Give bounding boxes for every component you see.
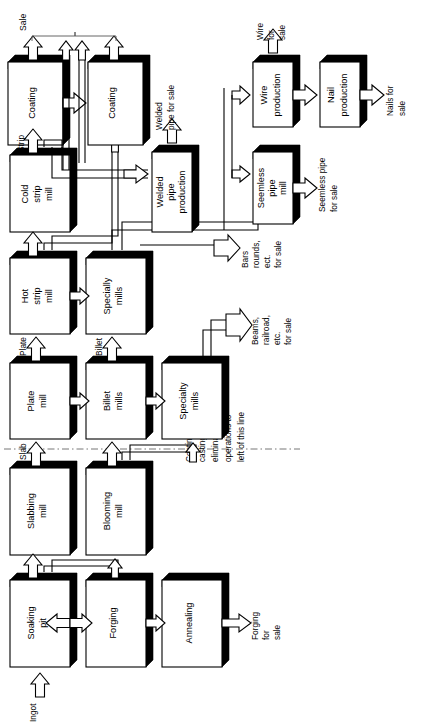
- cold-strip-label-2: strip: [32, 185, 42, 202]
- out-seemless-2: for sale: [329, 184, 339, 212]
- soaking-pit-label-1: Soaking: [26, 606, 36, 639]
- out-beams-1: Beams,: [250, 317, 260, 345]
- plate-mill-label-1: Plate: [26, 391, 36, 412]
- welded-pipe-label-1: Welded: [155, 177, 165, 208]
- specialty-upper-label-2: mills: [114, 286, 124, 305]
- out-forging-sale-1: Forging: [250, 611, 260, 640]
- out-bars-4: for sale: [273, 240, 283, 268]
- out-wire-2: for: [266, 30, 276, 40]
- label-strip: Strip: [16, 135, 26, 152]
- seemless-pipe-label-3: mill: [278, 181, 288, 195]
- specialty-upper-label-1: Specially: [102, 277, 112, 314]
- box-coating-one[interactable]: Coating: [8, 55, 70, 145]
- blooming-label-2: mill: [114, 504, 124, 518]
- label-ingot: Ingot: [28, 703, 38, 722]
- box-hot-strip-mill[interactable]: Hot strip mill: [10, 251, 77, 334]
- arrow-ingot-input: [31, 673, 49, 697]
- out-welded-pipe-1: Welded: [154, 102, 164, 130]
- out-nails-2: sale: [397, 100, 407, 116]
- specialty-lower-label-1: Specialty: [178, 382, 188, 420]
- specialty-lower-label-2: mills: [190, 391, 200, 410]
- sale-bracket: [32, 32, 116, 41]
- out-nails-1: Nails for: [385, 85, 395, 116]
- welded-pipe-label-3: production: [177, 171, 187, 214]
- out-wire-3: sale: [277, 24, 287, 40]
- cold-strip-label-1: Cold: [20, 185, 30, 204]
- hot-strip-label-1: Hot: [20, 288, 30, 303]
- sale-bracket-label: Sale: [18, 14, 28, 31]
- out-seemless-1: Seemless pipe: [317, 157, 327, 212]
- box-slabbing-mill[interactable]: Slabbing mill: [10, 461, 77, 555]
- arrow-into-wire-production: [224, 86, 250, 230]
- out-bars-2: rounds,: [251, 240, 261, 268]
- arrow-into-seemless-pipe: [232, 166, 250, 182]
- annealing-label: Annealing: [184, 603, 194, 644]
- box-cold-strip-mill[interactable]: Cold strip mill: [10, 148, 77, 232]
- out-wire-1: Wire: [255, 23, 265, 40]
- out-bars-1: Bars: [240, 251, 250, 268]
- arrow-beams-for-sale: [203, 309, 252, 356]
- cold-strip-label-3: mill: [44, 187, 54, 201]
- out-forging-sale-2: for: [261, 630, 271, 640]
- welded-pipe-label-2: pipe: [166, 183, 176, 200]
- process-flow-diagram: Soaking pit Forging Annealing Ingot Forg…: [0, 0, 422, 728]
- seemless-pipe-label-2: pipe: [267, 179, 277, 196]
- label-plate: Plate: [18, 337, 28, 356]
- box-specialty-mills-upper[interactable]: Specially mills: [86, 251, 153, 334]
- out-forging-sale-3: sale: [272, 624, 282, 640]
- blooming-label-1: Blooming: [102, 492, 112, 530]
- billet-mills-label-2: mills: [114, 391, 124, 410]
- box-welded-pipe-production[interactable]: Welded pipe production: [152, 145, 199, 232]
- note-line-5: left of this line: [237, 411, 246, 462]
- label-slab: Slab: [18, 443, 28, 460]
- slabbing-label-2: mill: [38, 504, 48, 518]
- arrow-bars-rounds-for-sale: [140, 235, 240, 261]
- coating-two-label: Coating: [107, 87, 117, 119]
- box-annealing[interactable]: Annealing: [162, 573, 229, 667]
- out-welded-pipe-2: pipe for sale: [166, 84, 176, 130]
- box-billet-mills[interactable]: Billet mills: [86, 356, 153, 439]
- slabbing-label-1: Slabbing: [26, 493, 36, 529]
- coating-one-label: Coating: [27, 87, 37, 119]
- seemless-pipe-label-1: Seemless: [256, 167, 266, 208]
- plate-mill-label-2: mill: [38, 394, 48, 408]
- label-billet: Billet: [94, 337, 104, 356]
- forging-label: Forging: [108, 607, 118, 638]
- box-specialty-mills-lower[interactable]: Specialty mills: [162, 356, 229, 439]
- diagram-canvas: Soaking pit Forging Annealing Ingot Forg…: [0, 0, 422, 728]
- arrow-into-welded-pipe: [124, 165, 148, 183]
- out-beams-2: railroad,: [261, 315, 271, 345]
- nail-production-label-1: Nail: [326, 87, 336, 103]
- wire-production-label-1: Wire: [259, 86, 269, 105]
- hot-strip-label-3: mill: [44, 289, 54, 303]
- box-blooming-mill[interactable]: Blooming mill: [86, 461, 153, 555]
- note-line-2: casting: [198, 436, 207, 462]
- out-beams-4: for sale: [283, 317, 293, 345]
- box-coating-two[interactable]: Coating: [88, 55, 150, 145]
- box-forging[interactable]: Forging: [86, 573, 153, 667]
- box-plate-mill[interactable]: Plate mill: [10, 356, 77, 439]
- out-beams-3: etc.: [272, 332, 282, 345]
- billet-mills-label-1: Billet: [102, 391, 112, 411]
- hot-strip-label-2: strip: [32, 287, 42, 304]
- nail-production-label-2: production: [339, 74, 349, 117]
- arrow-sale-out-3: [75, 41, 89, 60]
- wire-production-label-2: production: [272, 74, 282, 117]
- out-bars-3: ect.: [262, 255, 272, 268]
